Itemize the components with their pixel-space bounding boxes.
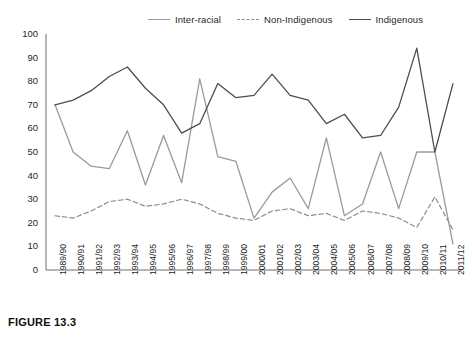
x-tick-label: 2008/09 xyxy=(403,244,412,275)
x-tick-label: 1994/95 xyxy=(149,244,158,275)
x-tick-label: 1997/98 xyxy=(204,244,213,275)
x-tick-label: 1996/97 xyxy=(186,244,195,275)
figure-caption: FIGURE 13.3 xyxy=(8,316,76,328)
x-tick-label: 1999/00 xyxy=(240,244,249,275)
legend-swatch-inter-racial xyxy=(148,19,170,20)
x-tick-label: 1990/91 xyxy=(77,244,86,275)
x-tick-label: 2001/02 xyxy=(276,244,285,275)
chart-axes xyxy=(46,34,462,270)
x-tick-label: 2003/04 xyxy=(312,244,321,275)
x-tick-label: 1991/92 xyxy=(95,244,104,275)
x-tick-label: 1993/94 xyxy=(131,244,140,275)
x-tick-label: 1989/90 xyxy=(59,244,68,275)
legend-item-inter-racial: Inter-racial xyxy=(148,14,221,25)
x-tick-label: 2007/08 xyxy=(385,244,394,275)
plot-area: 0102030405060708090100 1989/901990/91199… xyxy=(0,28,472,278)
line-chart-svg xyxy=(0,28,472,278)
legend-swatch-non-indigenous xyxy=(237,19,259,20)
legend-item-indigenous: Indigenous xyxy=(349,14,423,25)
y-tick-label: 90 xyxy=(12,53,38,63)
x-tick-label: 1995/96 xyxy=(168,244,177,275)
y-tick-label: 0 xyxy=(12,265,38,275)
y-tick-label: 50 xyxy=(12,147,38,157)
series-line-inter-racial xyxy=(55,79,453,244)
chart-legend: Inter-racial Non-Indigenous Indigenous xyxy=(148,10,458,28)
y-tick-label: 10 xyxy=(12,241,38,251)
y-tick-label: 70 xyxy=(12,100,38,110)
x-tick-label: 1998/99 xyxy=(222,244,231,275)
legend-swatch-indigenous xyxy=(349,19,371,20)
y-tick-label: 60 xyxy=(12,123,38,133)
series-line-non-indigenous xyxy=(55,197,453,230)
figure-container: Inter-racial Non-Indigenous Indigenous 0… xyxy=(0,0,472,339)
x-tick-label: 2009/10 xyxy=(421,244,430,275)
legend-label-inter-racial: Inter-racial xyxy=(175,14,221,25)
legend-label-non-indigenous: Non-Indigenous xyxy=(264,14,332,25)
x-tick-label: 2011/12 xyxy=(457,245,466,275)
legend-item-non-indigenous: Non-Indigenous xyxy=(237,14,332,25)
legend-label-indigenous: Indigenous xyxy=(376,14,423,25)
y-tick-label: 80 xyxy=(12,76,38,86)
y-tick-label: 20 xyxy=(12,218,38,228)
chart-series-group xyxy=(55,48,453,244)
x-tick-label: 2005/06 xyxy=(348,244,357,275)
x-tick-label: 2006/07 xyxy=(367,244,376,275)
y-tick-label: 30 xyxy=(12,194,38,204)
x-tick-label: 2010/11 xyxy=(439,245,448,275)
series-line-indigenous xyxy=(55,48,453,152)
x-tick-label: 1992/93 xyxy=(113,244,122,275)
x-tick-label: 2000/01 xyxy=(258,244,267,275)
x-tick-label: 2004/05 xyxy=(330,244,339,275)
y-tick-label: 100 xyxy=(12,29,38,39)
x-tick-label: 2002/03 xyxy=(294,244,303,275)
y-tick-label: 40 xyxy=(12,171,38,181)
